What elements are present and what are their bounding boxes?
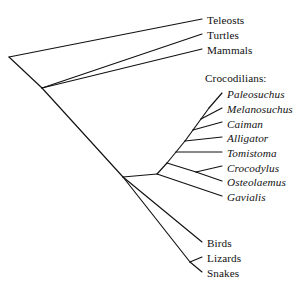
tree-branch: [9, 19, 202, 57]
tree-branch: [196, 166, 222, 172]
tip-label-turtles: Turtles: [207, 30, 239, 41]
group-header-crocodilians: Crocodilians:: [205, 73, 267, 84]
tree-branch: [9, 57, 42, 88]
tree-branch: [167, 152, 176, 163]
branch-layer: [9, 19, 222, 272]
tip-label-paleosuchus: Paleosuchus: [227, 89, 285, 100]
tree-branch: [157, 163, 167, 174]
tree-branch: [201, 108, 222, 119]
tree-branch: [185, 137, 222, 141]
tree-branch: [190, 262, 202, 272]
tree-branch: [176, 141, 185, 152]
tree-branch: [123, 177, 190, 262]
tree-branch: [185, 130, 193, 141]
tip-label-osteolaemus: Osteolaemus: [227, 177, 286, 188]
tip-label-birds: Birds: [207, 238, 232, 249]
tree-branch: [123, 177, 202, 242]
tip-label-mammals: Mammals: [207, 45, 252, 56]
tip-label-melanosuchus: Melanosuchus: [227, 104, 293, 115]
tip-label-crocodylus: Crocodylus: [227, 163, 279, 174]
tree-branch: [123, 174, 157, 177]
tree-branch: [196, 172, 222, 181]
tip-label-snakes: Snakes: [207, 268, 239, 279]
tip-label-alligator: Alligator: [227, 133, 268, 144]
tip-label-lizards: Lizards: [207, 253, 241, 264]
tip-label-caiman: Caiman: [227, 119, 263, 130]
tip-label-tomistoma: Tomistoma: [227, 148, 277, 159]
tree-branch: [209, 93, 222, 108]
phylogenetic-tree-figure: Crocodilians:TeleostsTurtlesMammalsPaleo…: [0, 0, 304, 286]
tree-branch: [167, 163, 196, 172]
tip-label-gavialis: Gavialis: [227, 192, 266, 203]
tree-branch: [42, 49, 202, 88]
tree-branch: [42, 34, 202, 88]
tip-label-teleosts: Teleosts: [207, 15, 244, 26]
tree-branch: [42, 88, 123, 177]
tree-branch: [190, 257, 202, 262]
